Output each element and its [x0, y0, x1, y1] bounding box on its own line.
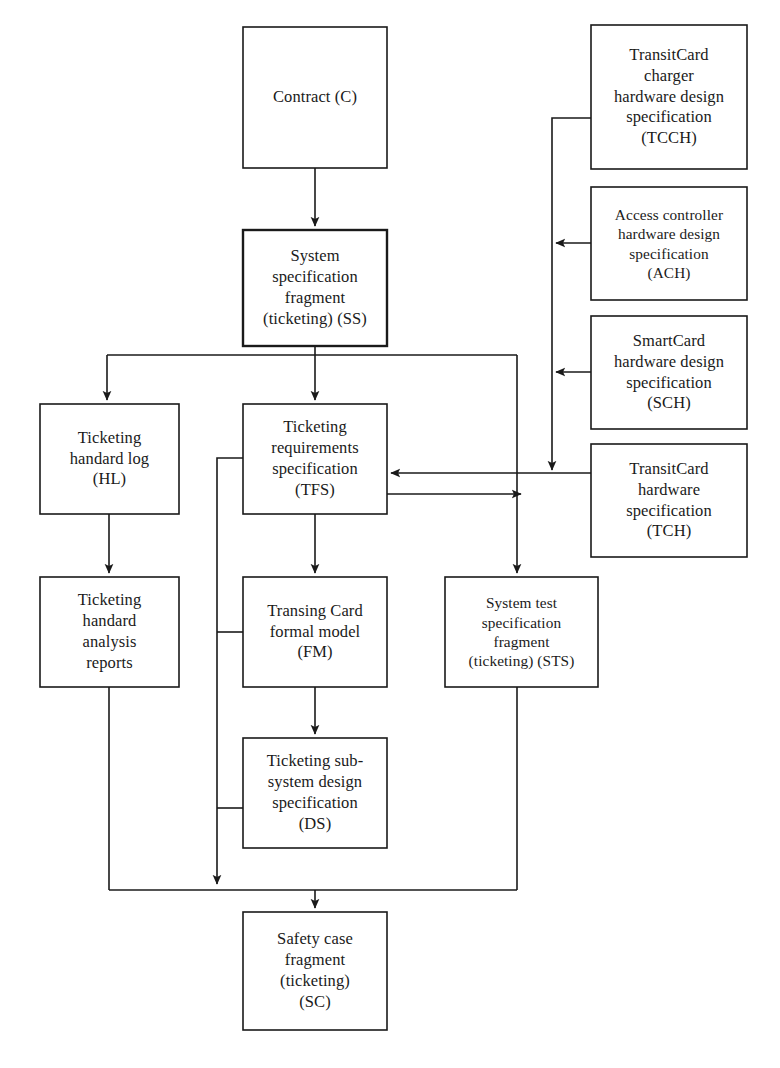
node-box-ticketing-handard-analysis-reports[interactable] — [40, 577, 179, 687]
node-box-safety-case-fragment[interactable] — [243, 912, 387, 1030]
node-box-system-specification-fragment[interactable] — [243, 230, 387, 346]
edge-requirements-left-trunk — [217, 458, 243, 884]
node-box-transing-card-formal-model[interactable] — [243, 577, 387, 687]
node-box-ticketing-sub-system-design-specification[interactable] — [243, 738, 387, 848]
node-box-transitcard-charger-hardware-design-specification[interactable] — [591, 25, 747, 169]
flowchart-diagram: Contract (C) System specification fragme… — [0, 0, 780, 1068]
edge-charger-spec-to-transitcard-hardware — [552, 118, 591, 470]
node-box-ticketing-handard-log[interactable] — [40, 404, 179, 514]
node-box-ticketing-requirements-specification[interactable] — [243, 404, 387, 514]
node-rectangles — [40, 25, 747, 1030]
node-box-smartcard-hardware-design-specification[interactable] — [591, 316, 747, 429]
node-box-contract[interactable] — [243, 27, 387, 168]
flowchart-canvas — [0, 0, 780, 1068]
node-box-system-test-specification-fragment[interactable] — [445, 577, 598, 687]
node-box-transitcard-hardware-specification[interactable] — [591, 444, 747, 557]
node-box-access-controller-hardware-design-specification[interactable] — [591, 187, 747, 300]
